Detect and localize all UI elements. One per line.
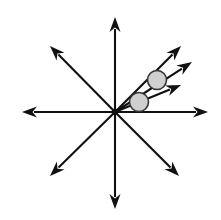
ray-diagram-canvas	[0, 0, 221, 220]
angle-marker-upper	[148, 71, 167, 90]
origin-point	[112, 109, 118, 115]
angle-marker-lower	[130, 93, 149, 112]
ray-diagram-figure	[0, 0, 221, 220]
